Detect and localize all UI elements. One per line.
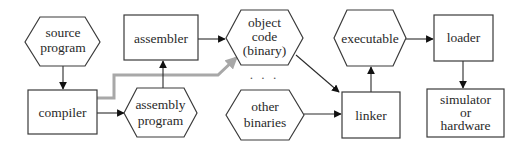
node-assembly-program: assembly program xyxy=(124,88,197,137)
svg-text:assembly: assembly xyxy=(135,97,185,112)
edge-object-code-to-linker xyxy=(296,55,339,92)
svg-text:object: object xyxy=(248,15,281,30)
svg-text:compiler: compiler xyxy=(39,105,87,120)
node-object-code: object code (binary) xyxy=(226,10,303,65)
svg-text:program: program xyxy=(40,40,86,55)
svg-text:assembler: assembler xyxy=(134,31,188,46)
node-assembler: assembler xyxy=(124,15,198,60)
svg-text:source: source xyxy=(45,25,80,40)
svg-text:loader: loader xyxy=(447,30,481,45)
node-executable: executable xyxy=(334,10,406,66)
svg-text:other: other xyxy=(251,99,279,114)
node-loader: loader xyxy=(434,15,493,61)
svg-text:executable: executable xyxy=(341,31,399,46)
compilation-flow-diagram: source program compiler assembler assemb… xyxy=(0,0,530,150)
svg-text:binaries: binaries xyxy=(244,115,287,130)
ellipsis-more-binaries: · · · xyxy=(249,70,279,85)
svg-text:hardware: hardware xyxy=(440,118,490,133)
svg-text:(binary): (binary) xyxy=(243,43,286,58)
node-simulator-or-hardware: simulator or hardware xyxy=(427,89,504,137)
svg-text:linker: linker xyxy=(355,108,387,123)
svg-text:program: program xyxy=(138,113,184,128)
node-other-binaries: other binaries xyxy=(226,90,304,140)
node-linker: linker xyxy=(342,92,400,138)
svg-text:code: code xyxy=(252,29,277,44)
node-source-program: source program xyxy=(25,17,100,66)
node-compiler: compiler xyxy=(28,90,97,134)
